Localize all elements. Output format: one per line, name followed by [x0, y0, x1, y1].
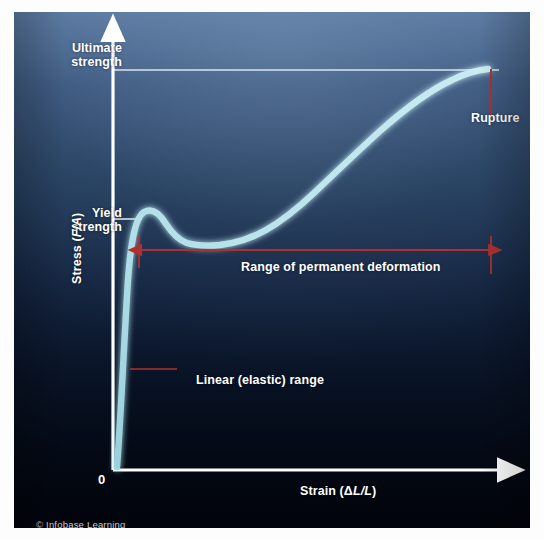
ultimate-strength-label: Ultimate strength: [50, 41, 122, 69]
rupture-label: Rupture: [471, 111, 520, 125]
x-axis-label-prefix: Strain (Δ: [300, 484, 353, 498]
x-axis-label-suffix: ): [372, 484, 376, 498]
x-axis-label-variable: L/L: [353, 484, 372, 498]
y-axis-label: Stress (F/A): [70, 213, 84, 284]
y-axis-label-suffix: ): [70, 213, 84, 217]
chart-panel: Ultimate strength Yield strength 0 Ruptu…: [14, 12, 530, 528]
y-axis-label-prefix: Stress (: [70, 237, 84, 284]
y-axis-label-variable: F/A: [70, 217, 84, 237]
range-permanent-deformation-label: Range of permanent deformation: [241, 260, 441, 274]
yield-strength-label: Yield strength: [50, 206, 122, 234]
linear-elastic-range-label: Linear (elastic) range: [196, 373, 324, 387]
stress-strain-figure: Ultimate strength Yield strength 0 Ruptu…: [0, 0, 544, 540]
origin-tick-label: 0: [98, 473, 105, 487]
x-axis-label: Strain (ΔL/L): [300, 484, 376, 498]
copyright-credit: © Infobase Learning: [36, 519, 126, 528]
